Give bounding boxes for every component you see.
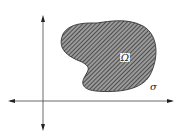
horizontal-axis (8, 99, 174, 103)
omega-label-box: Ω (120, 52, 130, 63)
region-omega (61, 21, 156, 92)
sigma-label: σ (150, 81, 158, 92)
omega-label: Ω (120, 52, 129, 63)
arrow-down-icon (41, 124, 45, 131)
arrow-right-icon (167, 99, 174, 103)
arrow-left-icon (8, 99, 15, 103)
vertical-axis (41, 15, 45, 131)
diagram-canvas: Ω σ (0, 0, 177, 135)
arrow-up-icon (41, 15, 45, 22)
